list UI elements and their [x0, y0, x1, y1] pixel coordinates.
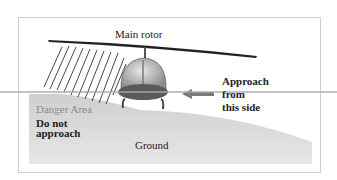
do-not-approach-line2: approach: [36, 128, 80, 139]
danger-area-label: Danger Area: [36, 104, 92, 115]
approach-label-line3: this side: [222, 102, 260, 113]
approach-label-line1: Approach: [222, 76, 269, 87]
ground-label: Ground: [135, 140, 169, 151]
helicopter-safety-diagram: [0, 0, 337, 180]
main-rotor-blade: [48, 40, 257, 58]
main-rotor-label: Main rotor: [115, 29, 162, 40]
approach-label-line2: from: [222, 89, 245, 100]
scan-artifact-line: [0, 91, 337, 93]
